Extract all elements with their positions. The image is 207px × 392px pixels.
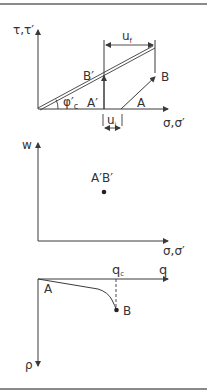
- rho-axis-label: ρ: [25, 358, 33, 372]
- stress-path-panel: τ,τ′ σ,σ′ B′ A′ A B φ′c uf ui: [13, 23, 185, 130]
- point-a-label-bottom: A: [44, 282, 53, 296]
- point-a-label: A: [137, 96, 146, 110]
- tau-axis-label: τ,τ′: [13, 23, 34, 37]
- load-settlement-panel: q qc A B ρ: [25, 262, 168, 372]
- qc-label: qc: [112, 262, 124, 278]
- b-prime-label: B′: [83, 69, 94, 83]
- a-prime-label: A′: [87, 96, 98, 110]
- sigma-axis-label-middle: σ,σ′: [163, 244, 185, 258]
- ui-label: ui: [107, 113, 117, 129]
- point-b-label-bottom: B: [123, 304, 131, 318]
- point-b-bottom: [114, 308, 119, 313]
- point-a-prime-b-prime: [102, 190, 107, 195]
- uf-label: uf: [122, 29, 133, 45]
- point-b-label: B: [161, 70, 169, 84]
- water-content-panel: w σ,σ′ A′B′: [22, 138, 185, 258]
- w-axis-label: w: [22, 138, 32, 152]
- soil-mechanics-diagram: τ,τ′ σ,σ′ B′ A′ A B φ′c uf ui w σ,σ′ A′B…: [0, 0, 207, 392]
- a-prime-b-prime-label: A′B′: [91, 171, 113, 185]
- sigma-axis-label: σ,σ′: [163, 116, 185, 130]
- friction-angle-label: φ′c: [63, 95, 78, 111]
- q-axis-label: q: [159, 262, 167, 277]
